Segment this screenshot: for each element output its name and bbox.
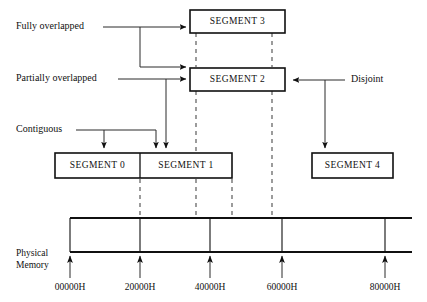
segment-0-label: SEGMENT 0 <box>70 160 125 170</box>
fully-overlapped-label: Fully overlapped <box>16 20 84 31</box>
disjoint-label: Disjoint <box>351 73 383 84</box>
contiguous-label: Contiguous <box>16 123 62 134</box>
segment-3-node: SEGMENT 3 <box>190 10 285 33</box>
address-label-3: 60000H <box>267 282 298 292</box>
dashed-guide-group <box>140 33 272 217</box>
address-label-4: 80000H <box>370 282 401 292</box>
segment-3-label: SEGMENT 3 <box>210 16 265 26</box>
fully-overlapped-arrow-to-seg2 <box>140 27 186 67</box>
segment-2-label: SEGMENT 2 <box>210 74 265 84</box>
address-label-2: 40000H <box>195 282 226 292</box>
partially-overlapped-connector-group: Partially overlapped <box>16 72 186 148</box>
address-label-1: 20000H <box>125 282 156 292</box>
segment-memory-diagram: SEGMENT 3 SEGMENT 2 SEGMENT 0 SEGMENT 1 … <box>0 0 427 302</box>
segment-2-node: SEGMENT 2 <box>190 68 285 91</box>
segment-4-node: SEGMENT 4 <box>312 153 393 178</box>
diagram-canvas: SEGMENT 3 SEGMENT 2 SEGMENT 0 SEGMENT 1 … <box>0 0 427 302</box>
segment-1-label: SEGMENT 1 <box>158 160 213 170</box>
address-label-0: 00000H <box>55 282 86 292</box>
contiguous-connector-group: Contiguous <box>16 123 156 148</box>
physical-memory-bar <box>70 218 412 252</box>
segment-0-1-node: SEGMENT 0 SEGMENT 1 <box>55 153 232 178</box>
partially-overlapped-label: Partially overlapped <box>16 72 97 83</box>
physical-memory-label-line1: Physical <box>16 248 49 258</box>
physical-memory-label-line2: Memory <box>16 260 49 270</box>
segment-4-label: SEGMENT 4 <box>325 160 380 170</box>
physical-memory-caption: Physical Memory <box>16 248 49 270</box>
disjoint-connector-group: Disjoint <box>293 73 383 148</box>
fully-overlapped-connector-group: Fully overlapped <box>16 20 186 67</box>
memory-address-ticks: 00000H 20000H 40000H 60000H 80000H <box>55 256 401 292</box>
